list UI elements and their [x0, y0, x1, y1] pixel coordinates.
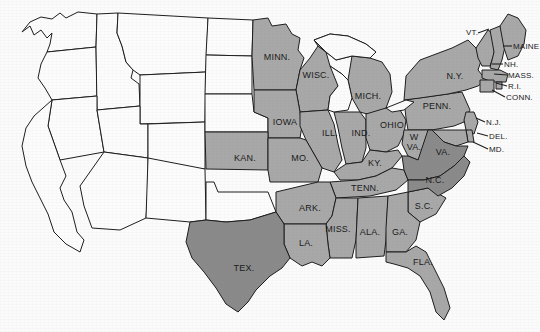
state-minnesota[interactable] — [252, 18, 304, 90]
us-map-container: MINN.WISC.MICH.IOWAILL.IND.OHIOPENN.N.Y.… — [0, 0, 540, 332]
state-alabama[interactable] — [356, 196, 388, 258]
state-oregon[interactable] — [38, 47, 97, 100]
state-ohio[interactable] — [366, 108, 406, 152]
state-kansas[interactable] — [205, 132, 268, 170]
state-louisiana[interactable] — [284, 224, 330, 266]
state-texas[interactable] — [186, 212, 290, 312]
state-south-dakota[interactable] — [205, 55, 252, 94]
state-wyoming[interactable] — [140, 72, 206, 124]
state-north-dakota[interactable] — [206, 18, 253, 56]
state-washington[interactable] — [22, 12, 97, 52]
us-map-svg — [0, 0, 540, 332]
leader-line-del — [477, 133, 488, 136]
state-florida[interactable] — [386, 246, 450, 320]
state-new-mexico[interactable] — [146, 158, 206, 222]
state-arizona[interactable] — [80, 152, 148, 230]
state-michigan-lp[interactable] — [348, 56, 392, 116]
state-arkansas[interactable] — [276, 182, 336, 224]
state-montana[interactable] — [117, 13, 208, 75]
state-utah[interactable] — [97, 106, 148, 158]
leader-line-md — [473, 142, 488, 149]
state-new-york[interactable] — [404, 40, 486, 100]
leader-line-conn — [492, 90, 505, 97]
